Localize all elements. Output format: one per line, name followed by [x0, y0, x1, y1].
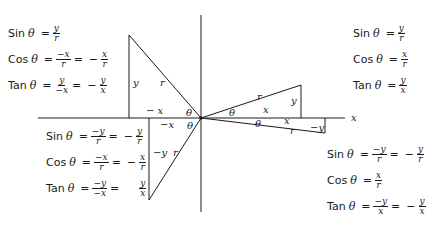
equals-sign: = — [391, 200, 400, 213]
x-axis-label: x — [351, 112, 357, 123]
equals-sign: = — [389, 53, 398, 66]
denominator: r — [98, 163, 104, 172]
denominator: r — [95, 137, 101, 146]
denominator: x — [100, 86, 107, 95]
theta-symbol: θ — [30, 79, 37, 92]
denominator: r — [101, 60, 107, 69]
equals-sign: = — [74, 53, 83, 66]
q2-angle-label: θ — [186, 107, 192, 118]
q3-angle-label: θ — [187, 120, 193, 131]
denominator: x — [399, 86, 406, 95]
q2-opp-label: y — [132, 77, 139, 88]
equals-sign: = — [360, 148, 369, 161]
fraction: yx — [139, 179, 146, 198]
equals-sign: = — [41, 27, 50, 40]
q4-equation-tan: Tanθ=−yx=−yx — [327, 197, 426, 216]
equals-sign: = — [44, 53, 53, 66]
equals-sign: = — [387, 79, 396, 92]
function-name: Tan — [46, 182, 65, 195]
q3-hyp-label: r — [173, 147, 179, 158]
function-name: Tan — [353, 79, 372, 92]
q4-opp-label: −y — [310, 122, 324, 133]
minus-sign: − — [405, 148, 414, 161]
equals-sign: = — [72, 79, 81, 92]
q3-equation-sin: Sinθ=−yr=−yr — [46, 127, 143, 146]
theta-symbol: θ — [349, 200, 356, 213]
q2-equation-cos: Cosθ=−xr=−xr — [8, 50, 108, 69]
fraction: −yr — [91, 127, 106, 146]
equals-sign: = — [363, 174, 372, 187]
q1-adj-label: x — [263, 104, 269, 115]
theta-symbol: θ — [375, 79, 382, 92]
function-name: Tan — [8, 79, 27, 92]
denominator: r — [376, 155, 382, 164]
q1-equation-tan: Tanθ=yx — [353, 76, 407, 95]
function-name: Cos — [327, 174, 347, 187]
spacer — [125, 182, 136, 195]
denominator: x — [377, 207, 384, 216]
theta-symbol: θ — [376, 53, 383, 66]
equals-sign: = — [386, 27, 395, 40]
denominator: x — [419, 207, 426, 216]
theta-symbol: θ — [28, 27, 35, 40]
function-name: Cos — [353, 53, 373, 66]
minus-sign: − — [89, 53, 98, 66]
q4-equation-sin: Sinθ=−yr=−yr — [327, 145, 424, 164]
function-name: Tan — [327, 200, 346, 213]
fraction: yr — [136, 127, 143, 146]
fraction: xr — [375, 171, 382, 190]
denominator: r — [53, 34, 59, 43]
denominator: r — [401, 60, 407, 69]
q3-equation-cos: Cosθ=−xr=−xr — [46, 153, 146, 172]
equals-sign: = — [79, 130, 88, 143]
function-name: Cos — [8, 53, 28, 66]
equals-sign: = — [390, 148, 399, 161]
q2-hyp-label: r — [160, 77, 166, 88]
minus-sign: − — [87, 79, 96, 92]
q3-equation-tan: Tanθ=−y−x= yx — [46, 179, 146, 198]
origin-point — [199, 116, 203, 120]
q3-opp-label: −y — [153, 147, 167, 158]
function-name: Sin — [353, 27, 370, 40]
fraction: −y−x — [92, 179, 107, 198]
q1-equation-sin: Sinθ=yr — [353, 24, 405, 43]
fraction: yr — [417, 145, 424, 164]
denominator: r — [398, 34, 404, 43]
fraction: −xr — [56, 50, 71, 69]
equals-sign: = — [361, 200, 370, 213]
function-name: Sin — [46, 130, 63, 143]
q4-equation-cos: Cosθ=xr — [327, 171, 382, 190]
triangle-q1 — [201, 85, 301, 118]
denominator: −x — [54, 86, 69, 95]
fraction: −yx — [373, 197, 388, 216]
fraction: yr — [398, 24, 405, 43]
triangle-q3 — [149, 118, 201, 200]
theta-symbol: θ — [31, 53, 38, 66]
function-name: Cos — [46, 156, 66, 169]
fraction: y−x — [54, 76, 69, 95]
fraction: yr — [53, 24, 60, 43]
q4-angle-label: θ — [255, 118, 261, 129]
equals-sign: = — [110, 182, 119, 195]
q3-adj-label: −x — [160, 119, 174, 130]
theta-symbol: θ — [350, 174, 357, 187]
minus-sign: − — [406, 200, 415, 213]
q1-opp-label: y — [290, 95, 297, 106]
fraction: yx — [419, 197, 426, 216]
denominator: r — [60, 60, 66, 69]
equals-sign: = — [109, 130, 118, 143]
equals-sign: = — [82, 156, 91, 169]
equals-sign: = — [42, 79, 51, 92]
theta-symbol: θ — [68, 182, 75, 195]
theta-symbol: θ — [69, 156, 76, 169]
equals-sign: = — [112, 156, 121, 169]
q1-equation-cos: Cosθ=xr — [353, 50, 408, 69]
denominator: r — [136, 137, 142, 146]
q2-equation-sin: Sinθ=yr — [8, 24, 60, 43]
fraction: yx — [399, 76, 406, 95]
denominator: −x — [92, 189, 107, 198]
denominator: r — [417, 155, 423, 164]
q1-hyp-label: r — [257, 91, 263, 102]
theta-symbol: θ — [66, 130, 73, 143]
denominator: r — [139, 163, 145, 172]
